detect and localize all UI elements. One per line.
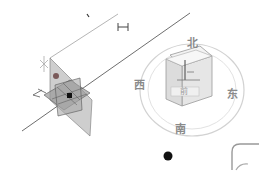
gizmo-center-point[interactable] [67,93,72,98]
tick-mark [87,14,89,17]
axis-line-upper [50,14,118,58]
origin-point [164,152,173,161]
compass-south-label[interactable]: 南 [174,124,186,135]
scene-canvas[interactable] [0,0,259,176]
axis-line-main [22,13,190,131]
compass-east-label[interactable]: 东 [226,89,238,100]
3d-viewport[interactable]: 北 西 东 南 前 [0,0,259,176]
home-view-icon[interactable] [232,144,259,170]
viewcube-front-label[interactable]: 前 [180,88,188,96]
axis-label-icon [40,56,48,72]
gizmo-handle-dot[interactable] [53,73,59,79]
compass-north-label[interactable]: 北 [186,38,198,49]
viewcube-left-face[interactable] [166,59,182,106]
compass-west-label[interactable]: 西 [133,80,145,91]
move-arrow-icon[interactable] [33,89,46,97]
viewcube[interactable] [166,46,212,106]
dimension-marker-icon [118,23,128,31]
transform-gizmo[interactable] [33,56,92,136]
